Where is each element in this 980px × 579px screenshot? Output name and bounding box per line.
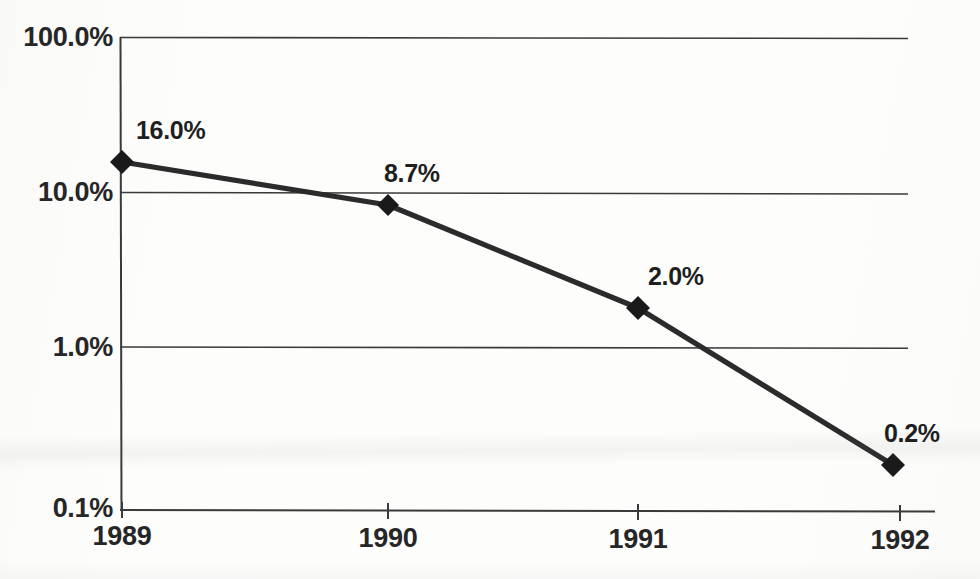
- line-chart-canvas: [0, 0, 980, 579]
- data-point-marker-1991: [626, 296, 650, 320]
- data-label-1990: 8.7%: [384, 161, 440, 186]
- gridlines: [120, 38, 908, 349]
- data-label-1991: 2.0%: [648, 264, 704, 289]
- y-axis-tick-label-10: 10.0%: [0, 179, 113, 206]
- x-axis-tick-label-1990: 1990: [328, 525, 448, 552]
- data-point-marker-1992: [881, 453, 905, 477]
- y-axis-tick-label-100: 100.0%: [0, 24, 113, 51]
- x-axis-tick-label-1989: 1989: [62, 523, 182, 550]
- x-axis-tick-label-1992: 1992: [840, 527, 960, 554]
- data-point-marker-1990: [377, 194, 399, 216]
- data-point-markers: [110, 150, 905, 477]
- y-axis-tick-label-1: 1.0%: [0, 334, 113, 361]
- data-point-marker-1989: [110, 150, 134, 174]
- x-axis-line: [120, 510, 935, 512]
- data-label-1992: 0.2%: [884, 421, 940, 446]
- data-label-1989: 16.0%: [136, 118, 205, 143]
- chart-page: 100.0% 10.0% 1.0% 0.1% 1989 1990 1991 19…: [0, 0, 980, 579]
- data-series-line: [122, 162, 893, 465]
- y-axis-line: [121, 37, 122, 511]
- y-axis-tick-label-0-1: 0.1%: [0, 495, 113, 522]
- x-axis-tick-label-1991: 1991: [578, 526, 698, 553]
